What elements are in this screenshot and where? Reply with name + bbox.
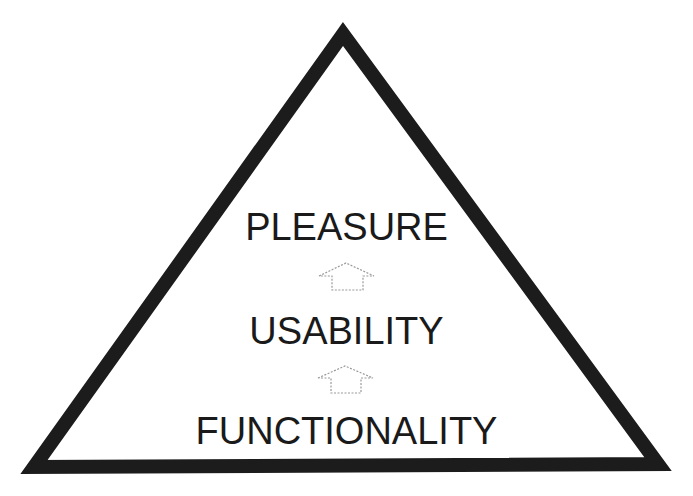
level-label-functionality: FUNCTIONALITY bbox=[0, 412, 693, 450]
level-label-usability: USABILITY bbox=[0, 312, 693, 350]
triangle-outline bbox=[34, 34, 658, 467]
up-arrow-icon bbox=[318, 366, 373, 393]
level-label-pleasure: PLEASURE bbox=[0, 208, 693, 246]
hierarchy-diagram: PLEASURE USABILITY FUNCTIONALITY bbox=[0, 0, 693, 496]
up-arrow-icon bbox=[319, 263, 374, 290]
